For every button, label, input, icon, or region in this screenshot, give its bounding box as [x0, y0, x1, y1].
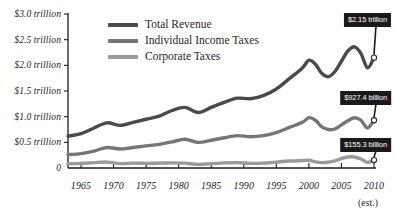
y-tick-label: $1.0 trillion — [14, 112, 61, 122]
legend-swatch-individual-income-taxes — [108, 39, 138, 43]
callout-total-revenue: $2.15 trillion — [344, 13, 391, 27]
y-tick-label: $2.0 trillion — [14, 60, 61, 70]
x-tick-label: 1975 — [136, 180, 156, 191]
x-tick-label: 1985 — [201, 180, 221, 191]
y-tick-label: $0.5 trillion — [14, 137, 61, 147]
x-tick-label: 1980 — [168, 180, 188, 191]
endpoint-marker-1 — [371, 118, 376, 123]
legend-label-individual-income-taxes: Individual Income Taxes — [145, 35, 259, 47]
y-tick-label: $2.5 trillion — [14, 35, 61, 45]
x-tick-label: 1990 — [234, 180, 254, 191]
y-tick-label: $3.0 trillion — [14, 9, 61, 19]
x-tick-label: 1965 — [71, 180, 91, 191]
y-tick-label: $1.5 trillion — [14, 86, 61, 96]
y-tick-label: 0 — [56, 163, 61, 173]
callout-corporate-taxes: $155.3 billion — [340, 138, 391, 152]
revenue-line-chart: 0$0.5 trillion$1.0 trillion$1.5 trillion… — [0, 0, 394, 217]
x-axis-estimate-note: (est.) — [358, 198, 378, 208]
legend-item-individual-income-taxes: Individual Income Taxes — [108, 33, 259, 49]
x-tick-label: 2000 — [299, 180, 319, 191]
endpoint-marker-0 — [371, 55, 376, 60]
chart-legend: Total Revenue Individual Income Taxes Co… — [108, 17, 259, 65]
legend-swatch-total-revenue — [108, 23, 138, 27]
legend-item-corporate-taxes: Corporate Taxes — [108, 49, 259, 65]
callout-leader-1 — [374, 104, 376, 117]
legend-label-total-revenue: Total Revenue — [145, 19, 212, 31]
x-tick-label: 1995 — [266, 180, 286, 191]
endpoint-marker-2 — [371, 157, 376, 162]
x-tick-label: 2005 — [331, 180, 351, 191]
legend-label-corporate-taxes: Corporate Taxes — [145, 51, 220, 63]
legend-item-total-revenue: Total Revenue — [108, 17, 259, 33]
x-tick-label: 2010 — [364, 180, 384, 191]
legend-swatch-corporate-taxes — [108, 55, 138, 59]
series-line-2 — [68, 157, 374, 165]
x-tick-label: 1970 — [103, 180, 123, 191]
callout-leader-0 — [374, 26, 376, 55]
callout-individual-income-taxes: $927.4 billion — [340, 91, 391, 105]
